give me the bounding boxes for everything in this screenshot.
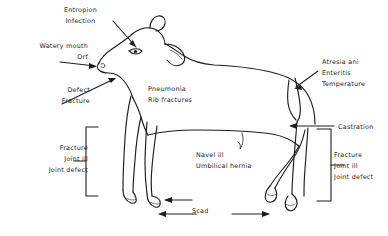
hind-leg-far-back — [292, 122, 297, 194]
label-navel-ill: Navel ill Umbilical hernia — [196, 150, 252, 172]
front-leg-far-back — [145, 122, 147, 194]
front-leg-near-back — [123, 96, 131, 190]
arrow-head-scad-right — [262, 211, 270, 217]
hind-hoof-far-cleft — [285, 204, 295, 206]
label-fracture-right-line-3: Joint defect — [334, 172, 373, 183]
chest-line — [133, 98, 148, 135]
head-topline — [99, 28, 165, 63]
front-hoof-near — [123, 190, 136, 203]
label-atresia-ani: Atresia ani Enteritis Temperature — [322, 57, 365, 90]
arrow-head-castration — [289, 123, 297, 129]
label-fracture-right-line-1: Fracture — [334, 150, 373, 161]
label-entropion-line-2: Infection — [64, 16, 97, 27]
front-leg-near-front — [133, 117, 141, 192]
hind-leg-near-back — [275, 130, 305, 188]
bracket-right-outline — [317, 129, 331, 201]
hind-hoof-far — [285, 194, 297, 211]
label-navel-line-1: Navel ill — [196, 150, 252, 161]
arrow-head-scad-left — [158, 211, 166, 217]
ear-inner-line — [170, 50, 182, 59]
label-atresia-line-2: Enteritis — [322, 68, 365, 79]
label-watery-mouth: Watery mouth Orf — [4, 41, 88, 63]
navel-pointer-line — [238, 133, 243, 149]
label-fracture-left-line-2: Joint ill — [12, 154, 88, 165]
label-defect-line-2: Fracture — [22, 96, 90, 107]
nostril — [101, 64, 105, 68]
lamb-illustration — [0, 0, 388, 236]
label-castration: Castration — [338, 122, 374, 133]
arrow-head-watery-mouth — [89, 63, 97, 69]
label-scad-line-1: Scad — [192, 206, 209, 217]
label-pneumonia: Pneumonia Rib fractures — [148, 84, 192, 106]
label-fracture-right-line-2: Joint ill — [334, 161, 373, 172]
leader-arrows — [60, 21, 334, 217]
label-atresia-line-3: Temperature — [322, 79, 365, 90]
arrow-head-defect — [108, 78, 116, 83]
label-entropion: Entropion Infection — [64, 5, 97, 27]
front-hoof-far — [147, 194, 160, 207]
arrow-head-front-hoof — [164, 197, 172, 203]
label-pneumonia-line-1: Pneumonia — [148, 84, 192, 95]
label-pneumonia-line-2: Rib fractures — [148, 95, 192, 106]
hind-leg-far-front — [304, 128, 308, 196]
front-hoof-near-cleft — [126, 198, 136, 200]
label-defect-fracture: Defect Fracture — [22, 85, 90, 107]
label-entropion-line-1: Entropion — [64, 5, 97, 16]
belly-line — [148, 130, 299, 146]
front-hoof-far-cleft — [150, 202, 160, 204]
label-fracture-joint-left: Fracture Joint ill Joint defect — [12, 143, 88, 176]
label-defect-line-1: Defect — [22, 85, 90, 96]
tail-left-edge — [288, 80, 296, 120]
arrow-line-atresia — [296, 71, 318, 87]
label-fracture-joint-right: Fracture Joint ill Joint defect — [334, 150, 373, 183]
label-fracture-left-line-1: Fracture — [12, 143, 88, 154]
label-castration-line-1: Castration — [338, 122, 374, 133]
front-leg-far-front — [151, 126, 157, 196]
label-watery-mouth-line-2: Orf — [4, 52, 88, 63]
muzzle-jawline — [98, 63, 134, 98]
label-navel-line-2: Umbilical hernia — [196, 161, 252, 172]
label-scad: Scad — [192, 206, 209, 217]
label-fracture-left-line-3: Joint defect — [12, 165, 88, 176]
hind-hoof-near-cleft — [267, 194, 276, 196]
label-atresia-line-1: Atresia ani — [322, 57, 365, 68]
lamb-health-diagram: Entropion Infection Watery mouth Orf Def… — [0, 0, 388, 236]
label-watery-mouth-line-1: Watery mouth — [4, 41, 88, 52]
eye-pupil — [134, 50, 137, 53]
